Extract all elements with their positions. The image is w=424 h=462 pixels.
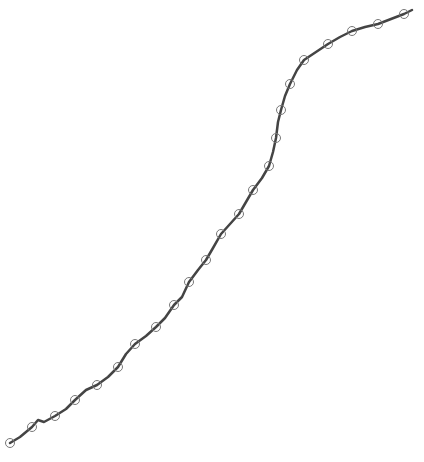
data-point-markers [6, 10, 409, 448]
series-line [10, 10, 412, 443]
line-chart [0, 0, 424, 462]
